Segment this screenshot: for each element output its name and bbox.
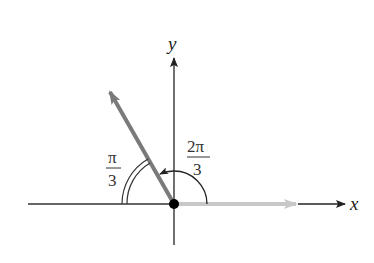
angle-diagram: y x 2π 3 π 3: [0, 0, 374, 263]
reference-angle-numerator: π: [108, 148, 117, 167]
reference-angle-arc-outer: [122, 159, 148, 204]
standard-angle-denominator: 3: [193, 160, 202, 179]
standard-angle-numerator: 2π: [187, 137, 205, 156]
y-axis-label: y: [166, 33, 177, 54]
reference-angle-arc-inner: [127, 163, 150, 204]
origin-dot: [169, 199, 179, 209]
reference-angle-denominator: 3: [108, 171, 117, 190]
x-axis-label: x: [349, 193, 359, 214]
terminal-side-vector: [110, 92, 174, 204]
